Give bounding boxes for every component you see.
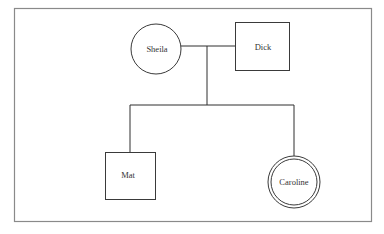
node-sheila: Sheila xyxy=(131,24,181,74)
node-caroline: Caroline xyxy=(268,156,320,208)
node-label-caroline: Caroline xyxy=(279,177,308,187)
node-label-dick: Dick xyxy=(255,42,272,52)
node-mat: Mat xyxy=(106,153,156,200)
genogram-diagram: Sheila Dick Mat Caroline xyxy=(0,0,384,234)
node-label-mat: Mat xyxy=(121,170,135,180)
node-label-sheila: Sheila xyxy=(146,44,167,54)
node-dick: Dick xyxy=(236,23,290,71)
